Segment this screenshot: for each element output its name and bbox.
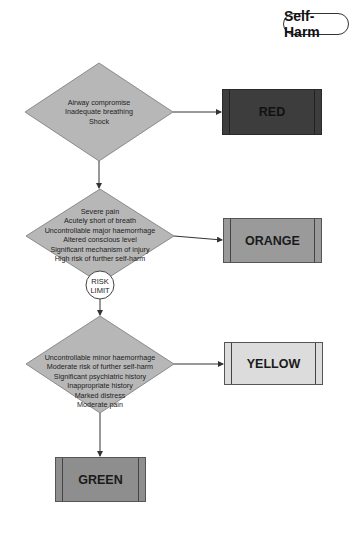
risk-limit-label: RISK LIMIT [86,277,114,295]
decision-2-text: Severe pain Acutely short of breath Unco… [40,207,160,263]
decision-1-text: Airway compromise Inadequate breathing S… [49,98,149,126]
outcome-red-label: RED [259,105,285,119]
outcome-yellow-label: YELLOW [247,357,300,371]
outcome-green: GREEN [55,457,146,502]
outcome-red: RED [222,89,322,135]
outcome-orange-label: ORANGE [245,234,300,248]
decision-3-text: Uncontrollable minor haemorrhage Moderat… [40,353,160,409]
outcome-yellow: YELLOW [224,342,323,385]
flowchart-connectors [0,0,351,544]
outcome-orange: ORANGE [223,218,322,263]
outcome-green-label: GREEN [78,473,122,487]
arrow-to-orange [174,236,222,240]
